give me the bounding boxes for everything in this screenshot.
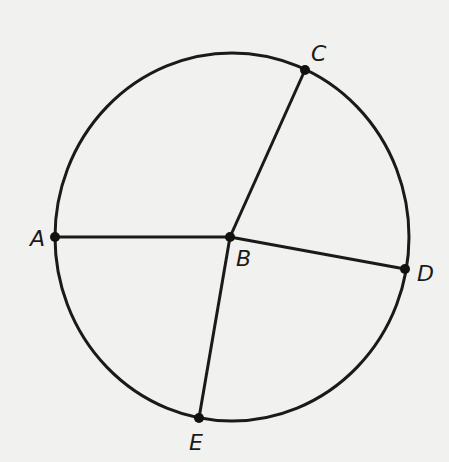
segment-bd bbox=[230, 237, 405, 269]
point-d bbox=[400, 264, 410, 274]
label-d: D bbox=[417, 261, 434, 286]
segment-be bbox=[199, 237, 230, 418]
point-e bbox=[194, 413, 204, 423]
label-c: C bbox=[311, 41, 327, 66]
label-a: A bbox=[28, 226, 45, 251]
label-e: E bbox=[189, 430, 203, 455]
segment-bc bbox=[230, 70, 305, 237]
point-b bbox=[225, 232, 235, 242]
point-a bbox=[50, 232, 60, 242]
point-c bbox=[300, 65, 310, 75]
circle-diagram: A B C D E bbox=[0, 0, 449, 462]
label-b: B bbox=[236, 246, 251, 271]
